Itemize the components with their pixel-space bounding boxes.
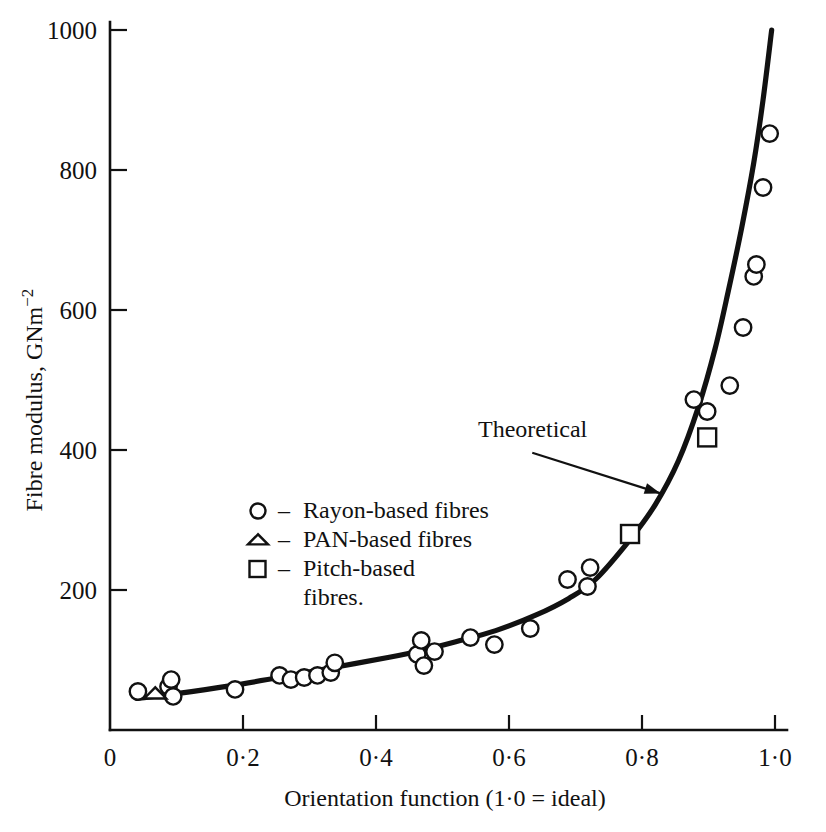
- x-tick-label: 0·4: [359, 744, 393, 771]
- data-point-circle: [522, 620, 538, 636]
- y-tick-label: 1000: [47, 17, 97, 44]
- data-point-circle: [462, 629, 478, 645]
- data-point-circle: [416, 657, 432, 673]
- legend-dash: –: [277, 526, 291, 552]
- y-axis-ticks: 2004006008001000: [47, 17, 127, 604]
- data-point-circle: [579, 578, 595, 594]
- y-tick-label: 600: [60, 297, 98, 324]
- data-point-circle: [686, 391, 702, 407]
- chart-axes: [110, 22, 787, 730]
- annotation-arrow-head: [644, 483, 661, 493]
- data-point-circle: [755, 179, 771, 195]
- data-point-circle: [722, 377, 738, 393]
- data-point-circle: [130, 683, 146, 699]
- data-point-circle: [227, 681, 243, 697]
- data-point-circle: [163, 671, 179, 687]
- data-point-circle: [327, 655, 343, 671]
- x-axis-title: Orientation function (1·0 = ideal): [284, 785, 605, 811]
- fibre-modulus-scatter-chart: 2004006008001000 00·20·40·60·81·0 Fibre …: [0, 0, 826, 832]
- legend-dash: –: [277, 555, 291, 581]
- legend-label: Rayon-based fibres: [303, 497, 489, 523]
- data-point-circle: [251, 504, 266, 519]
- legend-dash: –: [277, 497, 291, 523]
- x-tick-label: 0·6: [492, 744, 525, 771]
- data-point-markers: [130, 125, 778, 704]
- y-tick-label: 800: [60, 157, 98, 184]
- x-tick-label: 0·8: [625, 744, 658, 771]
- theoretical-curve: [137, 30, 772, 699]
- legend-label: Pitch-based: [303, 555, 415, 581]
- theoretical-annotation: Theoretical: [478, 416, 661, 494]
- y-tick-label: 400: [60, 437, 98, 464]
- y-tick-label: 200: [60, 577, 98, 604]
- annotation-arrow-line: [532, 453, 660, 494]
- legend-label: PAN-based fibres: [303, 526, 472, 552]
- data-point-circle: [165, 688, 181, 704]
- y-axis-title: Fibre modulus, GNm−2: [18, 289, 47, 512]
- data-point-triangle: [248, 534, 268, 544]
- data-point-circle: [748, 256, 764, 272]
- data-point-circle: [761, 125, 777, 141]
- data-point-square: [250, 561, 266, 577]
- x-axis-ticks: 00·20·40·60·81·0: [104, 715, 792, 771]
- x-tick-label: 0: [104, 744, 117, 771]
- data-point-square: [698, 428, 716, 446]
- x-tick-label: 1·0: [758, 744, 791, 771]
- legend-label: fibres.: [303, 584, 364, 610]
- data-point-circle: [559, 571, 575, 587]
- data-point-square: [621, 525, 639, 543]
- data-point-circle: [486, 636, 502, 652]
- data-point-circle: [426, 643, 442, 659]
- annotation-label: Theoretical: [478, 416, 588, 442]
- chart-legend: –Rayon-based fibres–PAN-based fibres–Pit…: [248, 497, 489, 610]
- x-tick-label: 0·2: [226, 744, 259, 771]
- data-point-circle: [699, 403, 715, 419]
- chart-figure: 2004006008001000 00·20·40·60·81·0 Fibre …: [0, 0, 826, 832]
- data-point-circle: [735, 319, 751, 335]
- data-point-circle: [582, 559, 598, 575]
